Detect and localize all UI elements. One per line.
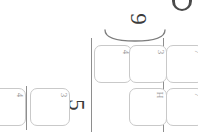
card-item[interactable]: 4 <box>94 45 132 83</box>
card-glyph: 3 <box>156 50 166 55</box>
page-canvas: 9 5 4 3 4 3 7 H 7 <box>0 0 198 134</box>
rule-left <box>26 86 27 130</box>
card-item[interactable]: 7 <box>166 45 198 83</box>
circle-badge[interactable] <box>172 0 192 11</box>
card-glyph: 7 <box>193 93 198 98</box>
card-item[interactable]: 3 <box>30 88 70 126</box>
card-glyph: 7 <box>193 50 198 55</box>
card-glyph: 3 <box>59 93 69 98</box>
card-item[interactable]: 7 <box>166 88 198 126</box>
badge-notch <box>175 0 189 9</box>
card-item[interactable]: H <box>129 88 167 126</box>
card-item[interactable]: 3 <box>129 45 167 83</box>
card-glyph: H <box>155 92 165 99</box>
card-glyph: 4 <box>15 93 25 98</box>
group-brace <box>104 29 166 43</box>
card-item[interactable]: 4 <box>0 88 26 126</box>
rule-mid <box>91 38 92 132</box>
